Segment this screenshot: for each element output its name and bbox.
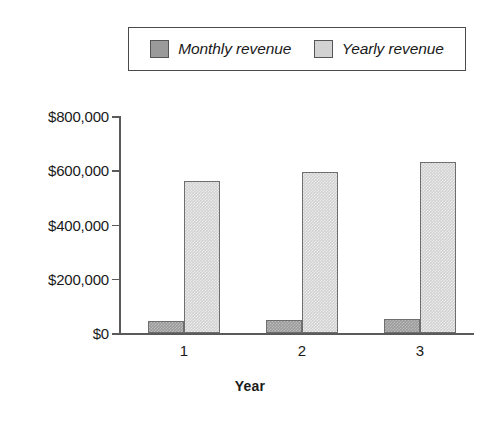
y-tick-label: $0 [93, 325, 109, 342]
y-tick-mark [112, 225, 119, 227]
y-tick-mark [112, 333, 119, 335]
bar-yearly-year-1 [184, 181, 220, 333]
bar-monthly-year-3 [384, 319, 420, 333]
bar-monthly-year-1 [148, 321, 184, 333]
legend-swatch-monthly-icon [150, 40, 169, 58]
y-axis-line [119, 116, 121, 333]
chart-legend: Monthly revenue Yearly revenue [128, 27, 466, 71]
legend-label-yearly: Yearly revenue [342, 40, 444, 58]
x-tick-label-2: 2 [298, 342, 306, 359]
y-tick-label: $400,000 [48, 216, 109, 233]
bar-yearly-year-3 [420, 162, 456, 333]
bar-yearly-year-2 [302, 172, 338, 333]
y-tick-mark [112, 116, 119, 118]
y-tick-label: $600,000 [48, 162, 109, 179]
y-tick-mark [112, 170, 119, 172]
x-tick-label-1: 1 [180, 342, 188, 359]
bar-chart-figure: Monthly revenue Yearly revenue $0$200,00… [0, 0, 500, 423]
legend-entry-monthly[interactable]: Monthly revenue [150, 40, 291, 58]
plot-area: $0$200,000$400,000$600,000$800,000 123 [119, 116, 474, 333]
y-tick-mark [112, 279, 119, 281]
legend-label-monthly: Monthly revenue [178, 40, 291, 58]
x-axis-line [119, 333, 474, 335]
x-tick-label-3: 3 [416, 342, 424, 359]
y-tick-label: $200,000 [48, 270, 109, 287]
y-tick-label: $800,000 [48, 108, 109, 125]
bar-monthly-year-2 [266, 320, 302, 333]
legend-swatch-yearly-icon [314, 40, 333, 58]
x-axis-title: Year [0, 378, 500, 394]
legend-entry-yearly[interactable]: Yearly revenue [314, 40, 444, 58]
